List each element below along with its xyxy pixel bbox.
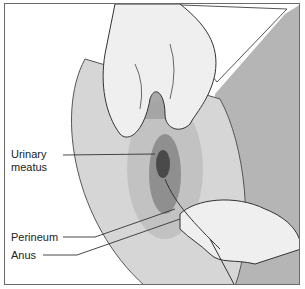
- label-urinary-meatus: Urinary meatus: [11, 148, 47, 174]
- label-anus: Anus: [11, 249, 36, 262]
- label-line: Anus: [11, 249, 36, 262]
- label-line: Perineum: [11, 231, 58, 244]
- label-line: meatus: [11, 161, 47, 174]
- label-line: Urinary: [11, 148, 47, 161]
- label-perineum: Perineum: [11, 231, 58, 244]
- illustration-frame: Urinary meatus Perineum Anus: [4, 3, 300, 285]
- opening: [156, 150, 170, 178]
